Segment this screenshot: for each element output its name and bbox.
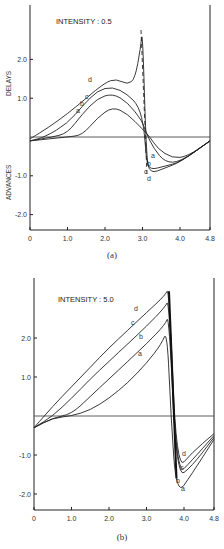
steep-drop-line bbox=[169, 291, 177, 478]
x-tick-label: 4.8 bbox=[209, 515, 219, 522]
axes-frame-b bbox=[34, 278, 214, 510]
y-tick-label: 2.0 bbox=[21, 335, 31, 342]
curve-label-b: b bbox=[139, 333, 143, 340]
curve-label-c: c bbox=[180, 464, 184, 471]
caption-b: (b) bbox=[117, 532, 128, 542]
curve-b bbox=[34, 319, 214, 473]
y-tick-label: -1.0 bbox=[19, 452, 31, 459]
x-tick-label: 4.0 bbox=[179, 515, 189, 522]
chart-panel-b: 2.01.0-1.0-2.0 01.02.03.04.04.8 INTENSIT… bbox=[0, 0, 224, 549]
curves-b: aabbccdd bbox=[34, 291, 214, 492]
curve-a bbox=[34, 336, 214, 487]
curve-d bbox=[34, 291, 214, 463]
x-tick-label: 3.0 bbox=[142, 515, 152, 522]
x-tick-label: 1.0 bbox=[67, 515, 77, 522]
chart-title-b: INTENSITY : 5.0 bbox=[58, 295, 114, 304]
x-tick-label: 0 bbox=[32, 515, 36, 522]
curve-label-d: d bbox=[182, 450, 186, 457]
curve-label-d: d bbox=[134, 305, 138, 312]
y-tick-label: 1.0 bbox=[21, 374, 31, 381]
curve-label-a: a bbox=[181, 485, 185, 492]
x-tick-label: 2.0 bbox=[104, 515, 114, 522]
x-ticks-b: 01.02.03.04.04.8 bbox=[32, 507, 219, 522]
y-tick-label: -2.0 bbox=[19, 491, 31, 498]
